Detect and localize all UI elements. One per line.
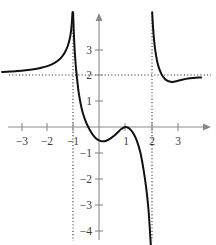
x-tick-label-neg2: −2 (41, 135, 53, 147)
y-tick-labels: 3 2 1 −1 −2 −3 −4 (80, 44, 93, 237)
x-tick-label-neg3: −3 (16, 135, 28, 147)
x-axis-arrow-icon (203, 124, 211, 131)
curve-group (2, 12, 201, 245)
y-tick-label-3: 3 (86, 44, 92, 56)
x-tick-label-3: 3 (175, 135, 181, 147)
plot-canvas: −3 −2 −1 1 2 3 3 2 1 −1 −2 −3 −4 (0, 0, 216, 245)
y-tick-label-2: 2 (86, 69, 92, 81)
curve-right-branch (152, 12, 201, 82)
x-tick-label-1: 1 (123, 135, 129, 147)
y-tick-label-neg3: −3 (80, 199, 92, 211)
y-tick-label-1: 1 (86, 95, 92, 107)
y-tick-label-neg4: −4 (80, 225, 92, 237)
axes-group (8, 13, 211, 240)
y-tick-label-neg2: −2 (80, 173, 92, 185)
y-tick-label-neg1: −1 (80, 147, 92, 159)
y-axis-arrow-icon (96, 13, 103, 21)
x-tick-label-2: 2 (149, 135, 155, 147)
rational-function-graph: −3 −2 −1 1 2 3 3 2 1 −1 −2 −3 −4 (0, 0, 216, 245)
curve-left-branch (2, 12, 72, 72)
x-tick-label-neg1: −1 (67, 135, 79, 147)
